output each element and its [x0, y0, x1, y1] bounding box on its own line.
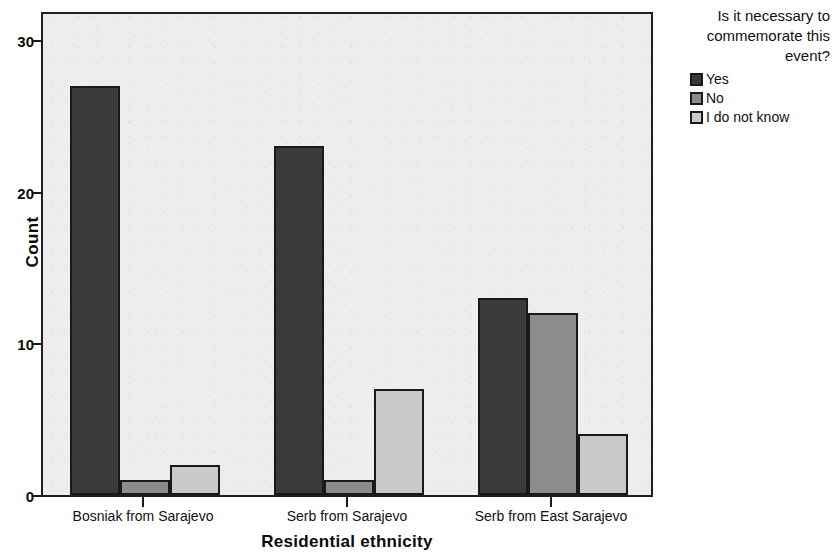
legend-title: Is it necessary to commemorate this even… — [672, 6, 830, 66]
bar-chart-figure: Count 0102030 Bosniak from SarajevoSerb … — [0, 0, 834, 559]
x-axis-title: Residential ethnicity — [41, 532, 653, 552]
x-tick-label: Bosniak from Sarajevo — [73, 508, 214, 524]
legend-swatch-icon — [690, 73, 703, 86]
y-tick-mark — [33, 495, 41, 497]
bar — [120, 480, 170, 495]
y-tick-mark — [33, 192, 41, 194]
legend-label: No — [706, 90, 724, 106]
bar — [528, 313, 578, 495]
legend-label: I do not know — [706, 109, 789, 125]
legend-items: YesNoI do not know — [690, 70, 830, 126]
y-tick-mark — [33, 343, 41, 345]
legend-item: No — [690, 89, 830, 107]
x-tick-mark — [142, 497, 144, 507]
bar — [70, 86, 120, 495]
legend-label: Yes — [706, 71, 729, 87]
bar — [374, 389, 424, 495]
bar — [170, 465, 220, 495]
x-tick-label: Serb from Sarajevo — [287, 508, 408, 524]
y-axis-tick-marks — [0, 0, 42, 559]
legend-item: I do not know — [690, 108, 830, 126]
plot-area — [41, 12, 653, 497]
legend-swatch-icon — [690, 111, 703, 124]
x-tick-mark — [550, 497, 552, 507]
x-tick-label: Serb from East Sarajevo — [475, 508, 628, 524]
legend: Is it necessary to commemorate this even… — [672, 6, 830, 127]
x-axis-tick-labels: Bosniak from SarajevoSerb from SarajevoS… — [41, 508, 653, 532]
bar — [578, 434, 628, 495]
legend-item: Yes — [690, 70, 830, 88]
y-tick-mark — [33, 40, 41, 42]
bar — [274, 146, 324, 495]
bar — [324, 480, 374, 495]
x-tick-mark — [346, 497, 348, 507]
bar — [478, 298, 528, 495]
bars-layer — [43, 14, 651, 495]
legend-swatch-icon — [690, 92, 703, 105]
